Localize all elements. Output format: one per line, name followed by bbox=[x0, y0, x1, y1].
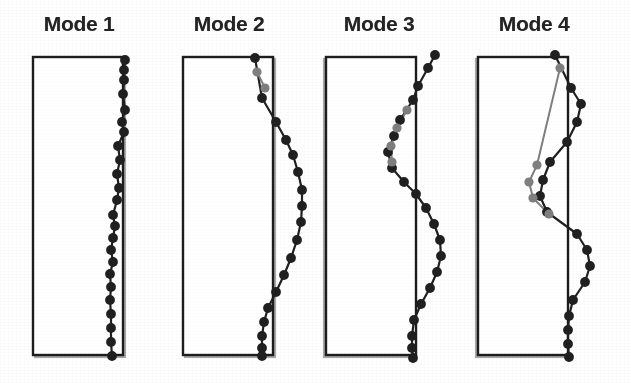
data-point-marker bbox=[119, 127, 129, 137]
mode-3-plot bbox=[300, 0, 458, 383]
data-point-marker bbox=[108, 210, 118, 220]
data-point-marker bbox=[263, 303, 273, 313]
data-point-marker bbox=[409, 315, 419, 325]
data-point-marker bbox=[562, 137, 572, 147]
data-point-marker bbox=[425, 283, 435, 293]
data-point-marker bbox=[120, 55, 130, 65]
data-point-marker bbox=[429, 219, 439, 229]
data-point-marker bbox=[544, 209, 553, 218]
data-point-marker bbox=[281, 135, 291, 145]
mode-shapes-figure: Mode 1 Mode 2 Mode 3 bbox=[0, 0, 631, 383]
data-point-marker bbox=[407, 343, 417, 353]
data-point-marker bbox=[435, 235, 445, 245]
data-point-marker bbox=[564, 311, 574, 321]
data-point-marker bbox=[112, 195, 122, 205]
data-point-marker bbox=[407, 331, 417, 341]
building-outline-3 bbox=[324, 57, 416, 357]
data-point-marker bbox=[118, 89, 128, 99]
panel-mode-1: Mode 1 bbox=[0, 0, 158, 383]
data-point-marker bbox=[532, 160, 541, 169]
data-point-marker bbox=[106, 282, 116, 292]
data-point-marker bbox=[524, 177, 533, 186]
data-point-marker bbox=[421, 203, 431, 213]
data-point-marker bbox=[106, 323, 116, 333]
data-point-marker bbox=[585, 261, 595, 271]
data-point-marker bbox=[106, 245, 116, 255]
data-point-marker bbox=[112, 169, 122, 179]
data-point-marker bbox=[572, 117, 582, 127]
data-point-marker bbox=[120, 105, 130, 115]
mode-4-plot bbox=[455, 0, 631, 383]
data-point-marker bbox=[528, 193, 537, 202]
data-point-marker bbox=[386, 141, 395, 150]
data-point-marker bbox=[563, 339, 573, 349]
data-point-marker bbox=[257, 351, 267, 361]
data-point-marker bbox=[538, 175, 548, 185]
panel-mode-3: Mode 3 bbox=[300, 0, 458, 383]
data-point-marker bbox=[108, 233, 118, 243]
data-point-marker bbox=[271, 117, 281, 127]
data-point-marker bbox=[408, 95, 418, 105]
data-point-marker bbox=[114, 183, 124, 193]
data-point-marker bbox=[392, 123, 401, 132]
data-point-marker bbox=[568, 295, 578, 305]
data-point-marker bbox=[576, 99, 586, 109]
data-point-marker bbox=[117, 117, 127, 127]
data-point-marker bbox=[105, 269, 115, 279]
data-point-marker bbox=[260, 83, 269, 92]
data-point-marker bbox=[271, 287, 281, 297]
data-point-marker bbox=[110, 221, 120, 231]
data-point-marker bbox=[545, 157, 555, 167]
data-point-marker bbox=[564, 352, 574, 362]
data-point-marker bbox=[106, 309, 116, 319]
data-point-marker bbox=[105, 295, 115, 305]
data-point-marker bbox=[572, 229, 582, 239]
data-point-marker bbox=[413, 81, 423, 91]
data-point-marker bbox=[566, 83, 576, 93]
data-point-marker bbox=[550, 50, 560, 60]
data-point-marker bbox=[257, 331, 267, 341]
mode-2-plot bbox=[150, 0, 308, 383]
data-point-marker bbox=[430, 50, 440, 60]
data-point-marker bbox=[113, 141, 123, 151]
data-point-marker bbox=[259, 317, 269, 327]
data-point-marker bbox=[580, 277, 590, 287]
data-point-marker bbox=[411, 189, 421, 199]
mode-1-plot bbox=[0, 0, 158, 383]
data-point-marker bbox=[252, 67, 261, 76]
data-point-marker bbox=[250, 53, 260, 63]
data-point-marker bbox=[555, 63, 564, 72]
data-point-marker bbox=[399, 177, 409, 187]
data-point-marker bbox=[288, 150, 298, 160]
data-point-marker bbox=[416, 299, 426, 309]
data-point-marker bbox=[115, 155, 125, 165]
data-point-marker bbox=[582, 245, 592, 255]
building-outline-4 bbox=[476, 57, 568, 357]
data-point-marker bbox=[432, 267, 442, 277]
panel-mode-2: Mode 2 bbox=[150, 0, 308, 383]
data-point-marker bbox=[286, 253, 296, 263]
data-point-marker bbox=[108, 257, 118, 267]
data-point-marker bbox=[106, 337, 116, 347]
data-point-marker bbox=[387, 157, 396, 166]
data-point-marker bbox=[119, 75, 129, 85]
data-point-marker bbox=[436, 251, 446, 261]
data-point-marker bbox=[257, 93, 267, 103]
data-point-marker bbox=[107, 351, 117, 361]
data-point-marker bbox=[402, 105, 411, 114]
panel-mode-4: Mode 4 bbox=[455, 0, 613, 383]
data-point-marker bbox=[563, 325, 573, 335]
data-point-marker bbox=[279, 270, 289, 280]
data-point-marker bbox=[119, 65, 129, 75]
data-point-marker bbox=[423, 63, 433, 73]
data-point-marker bbox=[408, 353, 418, 363]
